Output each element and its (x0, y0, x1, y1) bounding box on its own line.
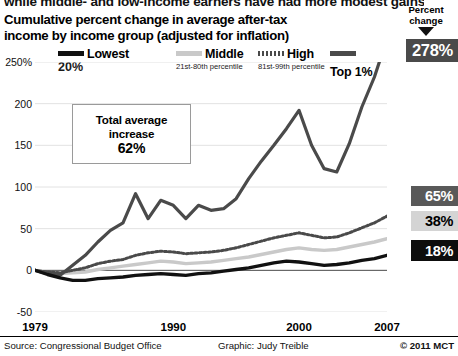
series-line-top-1- (35, 62, 387, 275)
y-tick-label: 100 (14, 181, 32, 193)
legend-label-high: High (287, 47, 314, 61)
legend-swatch-high-icon (258, 51, 284, 56)
y-tick-label: 200 (14, 98, 32, 110)
footer-source: Source: Congressional Budget Office (4, 340, 162, 351)
x-tick-label: 1990 (160, 321, 186, 333)
title-line-2: income by income group (adjusted for inf… (4, 28, 404, 44)
x-tick-label: 2007 (374, 321, 400, 333)
kicker-text: while middle- and low-income earners hav… (4, 0, 424, 9)
percent-change-line-2: change (395, 16, 457, 27)
footer-divider (0, 336, 458, 337)
percent-change-line-1: Percent (395, 5, 457, 16)
y-tick-label: 150 (14, 139, 32, 151)
y-tick-label: -50 (17, 306, 32, 318)
callout-lowest: 18% (411, 240, 458, 261)
title-line-1: Cumulative percent change in average aft… (4, 12, 287, 27)
legend-swatch-top1-icon (330, 51, 356, 56)
down-triangle-icon (418, 27, 434, 36)
callout-middle: 38% (411, 211, 458, 231)
footer-copyright: © 2011 MCT (400, 340, 454, 351)
percent-change-header: Percent change (395, 5, 457, 26)
legend-label-middle: Middle (205, 47, 243, 61)
y-tick-label: 50 (20, 223, 32, 235)
x-tick-label: 2000 (286, 321, 312, 333)
legend-label-lowest: Lowest (87, 47, 129, 61)
total-box-line-2: increase (109, 127, 154, 141)
callout-top1: 278% (406, 39, 458, 62)
plot-area (35, 62, 387, 312)
total-box-value: 62% (118, 141, 145, 155)
total-average-increase-box: Total average increase 62% (72, 104, 191, 164)
y-tick-label: 0 (26, 264, 32, 276)
legend-swatch-lowest-icon (58, 51, 84, 56)
legend-swatch-middle-icon (176, 51, 202, 56)
total-box-line-1: Total average (96, 113, 167, 127)
callout-high: 65% (411, 186, 458, 206)
y-axis: 250%200150100500-50 (0, 0, 32, 356)
footer-graphic-credit: Graphic: Judy Treible (218, 340, 309, 351)
page-title: Cumulative percent change in average aft… (4, 12, 404, 44)
chart-lines (35, 62, 387, 312)
x-axis: 1979199020002007 (0, 321, 458, 337)
x-tick-label: 1979 (22, 321, 48, 333)
y-tick-label: 250% (5, 56, 32, 68)
